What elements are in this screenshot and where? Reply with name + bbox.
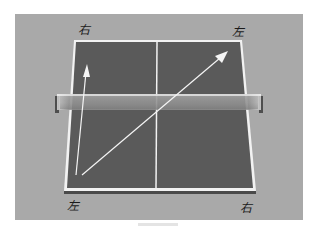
label-top-right: 左 xyxy=(232,26,244,38)
label-bottom-right: 右 xyxy=(240,202,252,214)
center-line xyxy=(156,42,157,188)
table-diagram xyxy=(0,0,316,230)
label-top-left: 右 xyxy=(78,24,90,36)
net-mesh xyxy=(60,96,258,109)
table-inner xyxy=(67,42,253,188)
label-bottom-left: 左 xyxy=(67,200,79,212)
faint-caption xyxy=(138,223,178,226)
